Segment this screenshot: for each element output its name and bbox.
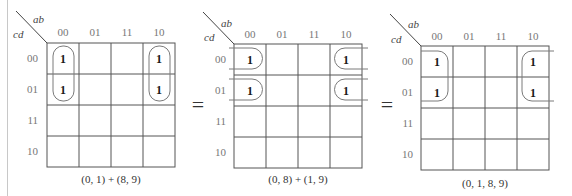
col-variable-label: ab [33,13,45,25]
cell-value: 1 [60,52,66,66]
col-header: 10 [341,28,353,40]
map-caption: (0, 1) + (8, 9) [81,173,141,186]
cell-value: 1 [530,86,536,100]
cell-value: 1 [156,83,162,97]
col-header: 11 [309,28,320,40]
equals-sign: = [381,92,393,117]
row-header: 10 [215,146,227,158]
cell-value: 1 [434,86,440,100]
row-variable-label: cd [13,28,24,40]
cell-value: 1 [434,55,440,69]
map-caption: (0, 8) + (1, 9) [268,173,328,186]
cell-value: 1 [247,53,253,67]
row-header: 00 [215,53,227,65]
karnaugh-map-diagram: ab cd 00 01 11 10 00 01 11 10 1 1 1 1 (0… [0,0,572,196]
cell-value: 1 [60,83,66,97]
row-variable-label: cd [204,31,215,43]
col-header: 00 [58,26,70,38]
row-header: 01 [215,84,226,96]
col-header: 10 [528,30,540,42]
row-header: 01 [402,86,413,98]
map-caption: (0, 1, 8, 9) [462,177,508,190]
row-variable-label: cd [391,33,402,45]
kmap-1: ab cd 00 01 11 10 00 01 11 10 1 1 1 1 (0… [13,11,175,186]
row-header: 00 [402,55,414,67]
col-header: 01 [277,28,288,40]
row-header: 00 [27,52,39,64]
col-header: 11 [496,30,507,42]
group-loop-1-9-right [335,79,369,100]
row-header: 10 [402,148,414,160]
col-variable-label: ab [408,18,420,30]
cell-value: 1 [156,52,162,66]
row-header: 10 [27,145,39,157]
kmap-3: ab cd 00 01 11 10 00 01 11 10 1 1 1 1 (0… [390,14,554,190]
cell-value: 1 [343,84,349,98]
col-variable-label: ab [221,17,233,29]
kmap-2: ab cd 00 01 11 10 00 01 11 10 1 1 1 1 (0… [203,12,368,186]
col-header: 01 [90,26,101,38]
row-header: 11 [27,114,38,126]
cell-value: 1 [247,84,253,98]
col-header: 10 [154,26,166,38]
row-header: 01 [27,83,38,95]
row-header: 11 [215,115,226,127]
group-loop-0-8-right [335,48,369,69]
row-header: 11 [402,117,413,129]
cell-value: 1 [343,53,349,67]
cell-value: 1 [530,55,536,69]
col-header: 01 [464,30,475,42]
equals-sign: = [192,92,204,117]
col-header: 00 [432,30,444,42]
col-header: 00 [245,28,257,40]
col-header: 11 [122,26,133,38]
